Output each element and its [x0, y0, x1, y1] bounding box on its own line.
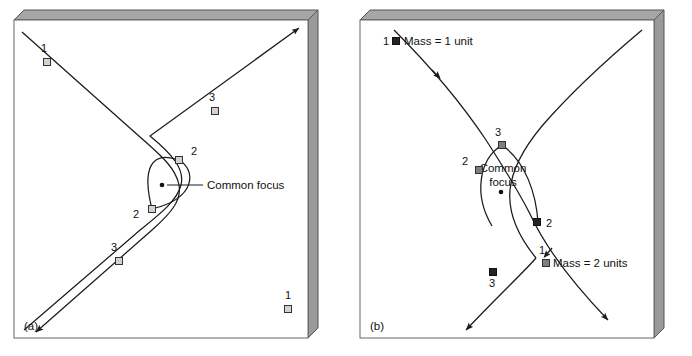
marker-b-1-heavy — [543, 260, 550, 267]
mass-label-2-units: Mass = 2 units — [553, 257, 628, 269]
slab-top-bevel — [360, 10, 664, 20]
panel-a-slab — [14, 10, 318, 338]
label-a-point-2b: 2 — [133, 208, 139, 220]
label-b-point-1a: 1 — [383, 35, 389, 47]
common-focus-label: Common focus — [207, 179, 285, 191]
label-a-point-3b: 3 — [111, 241, 117, 253]
marker-a-2-upper — [176, 157, 183, 164]
label-b-point-2a: 2 — [462, 155, 468, 167]
common-focus-dot — [160, 183, 165, 188]
label-b-point-3b: 3 — [489, 277, 495, 289]
panel-b: Common focus 1 3 2 2 1 3 Mass = 1 unit M… — [346, 0, 692, 356]
marker-a-3-lower — [116, 258, 123, 265]
figure-root: Common focus 1 3 2 2 3 1 (a) — [0, 0, 692, 356]
marker-a-1-lower — [285, 306, 292, 313]
panel-a: Common focus 1 3 2 2 3 1 (a) — [0, 0, 346, 356]
marker-b-3-light — [499, 142, 506, 149]
marker-a-2-lower — [149, 206, 156, 213]
label-b-point-1b: 1 — [539, 244, 545, 256]
label-a-point-3a: 3 — [209, 91, 215, 103]
marker-b-2-heavy — [534, 219, 541, 226]
label-a-point-2a: 2 — [191, 145, 197, 157]
label-a-point-1a: 1 — [41, 42, 47, 54]
panel-b-slab — [360, 10, 664, 338]
label-b-point-3a: 3 — [495, 126, 501, 138]
mass-label-1-unit: Mass = 1 unit — [404, 35, 474, 47]
marker-b-3-heavy — [490, 269, 497, 276]
slab-right-bevel — [654, 10, 664, 338]
label-b-point-2b: 2 — [546, 217, 552, 229]
panel-a-caption: (a) — [24, 320, 38, 332]
common-focus-label-line1: Common — [480, 162, 527, 174]
panel-b-caption: (b) — [370, 320, 384, 332]
marker-b-2-light — [476, 167, 483, 174]
marker-a-3-upper — [212, 108, 219, 115]
slab-top-bevel — [14, 10, 318, 20]
marker-a-1-upper — [44, 59, 51, 66]
label-a-point-1b: 1 — [285, 289, 291, 301]
common-focus-label-line2: focus — [489, 176, 517, 188]
common-focus-dot — [499, 190, 504, 195]
slab-right-bevel — [308, 10, 318, 338]
marker-b-1-light — [393, 38, 400, 45]
